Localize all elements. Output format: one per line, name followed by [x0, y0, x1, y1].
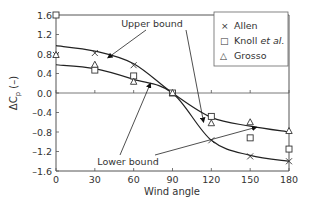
y-axis-label: ΔCp (–)	[8, 76, 22, 110]
x-tick-label: 60	[128, 174, 140, 185]
y-tick-label: 1.2	[37, 29, 52, 40]
legend-label: Allen	[234, 20, 258, 31]
square-marker-icon: □	[220, 36, 229, 46]
x-marker-icon: ×	[221, 21, 229, 31]
legend-label: Grosso	[234, 50, 267, 61]
triangle-marker-icon	[208, 120, 214, 126]
x-tick-label: 120	[202, 174, 220, 185]
lower-bound-curve	[56, 65, 289, 162]
y-tick-label: 1.6	[37, 10, 52, 21]
x-tick-label: 150	[241, 174, 259, 185]
chart-container: 1.61.20.80.40.0–0.4–0.8–1.2–1.6030609012…	[0, 0, 310, 207]
triangle-marker-icon	[247, 119, 253, 125]
square-marker-icon	[92, 67, 98, 73]
y-tick-label: –1.6	[32, 166, 52, 177]
square-marker-icon	[286, 146, 292, 152]
annotation-arrow	[120, 83, 150, 155]
annotation-arrow	[155, 127, 257, 155]
chart-svg: 1.61.20.80.40.0–0.4–0.8–1.2–1.6030609012…	[0, 0, 310, 207]
y-tick-label: 0.8	[37, 49, 52, 60]
x-axis-label: Wind angle	[144, 186, 200, 197]
y-tick-label: –1.2	[32, 146, 52, 157]
upper-bound-label: Upper bound	[121, 18, 183, 29]
lower-bound-label: Lower bound	[97, 156, 158, 167]
x-tick-label: 180	[280, 174, 298, 185]
x-tick-label: 90	[166, 174, 178, 185]
triangle-marker-icon: △	[220, 51, 227, 61]
square-marker-icon	[208, 113, 214, 119]
legend-label: Knoll et al.	[234, 35, 284, 46]
triangle-marker-icon	[92, 61, 98, 67]
legend-item-allen: × Allen	[221, 20, 258, 31]
x-tick-label: 0	[53, 174, 59, 185]
square-marker-icon	[247, 135, 253, 141]
square-marker-icon	[53, 12, 59, 18]
legend: × Allen □ Knoll et al. △ Grosso	[214, 12, 288, 66]
triangle-marker-icon	[286, 128, 292, 134]
y-tick-label: 0.0	[37, 88, 52, 99]
annotation-arrow	[108, 30, 146, 58]
y-tick-label: –0.4	[32, 107, 52, 118]
x-tick-label: 30	[89, 174, 101, 185]
y-tick-label: 0.4	[37, 68, 52, 79]
y-tick-label: –0.8	[32, 127, 52, 138]
